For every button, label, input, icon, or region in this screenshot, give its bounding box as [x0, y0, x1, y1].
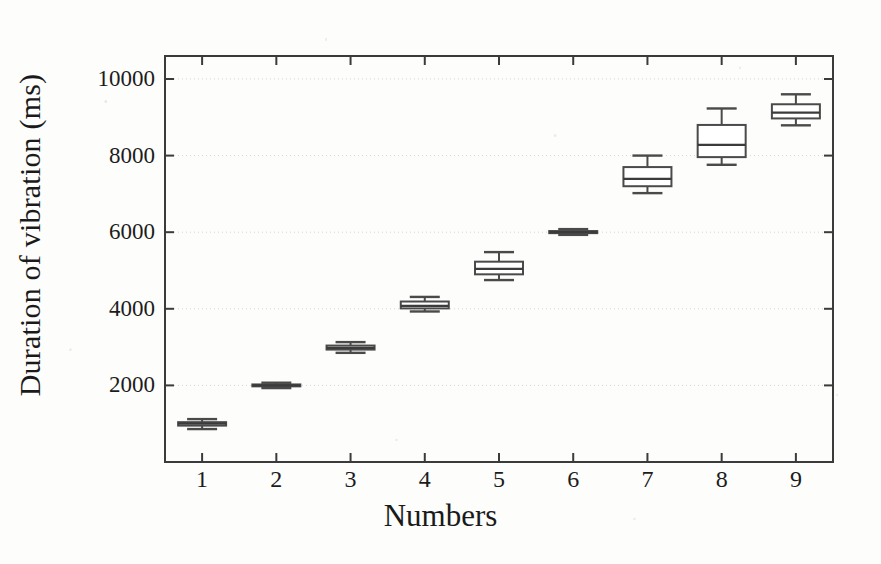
box-plot-item: [401, 297, 449, 312]
boxplot-chart: Duration of vibration (ms) 2000400060008…: [0, 0, 881, 564]
box-plot-item: [327, 342, 375, 353]
x-tick-label: 5: [493, 466, 505, 493]
box-plot-item: [698, 108, 746, 164]
x-tick-label: 2: [270, 466, 282, 493]
box: [772, 104, 820, 118]
x-axis-title: Numbers: [0, 498, 881, 534]
box-plot-item: [178, 419, 226, 429]
x-tick-label: 3: [345, 466, 357, 493]
x-tick-label: 6: [567, 466, 579, 493]
box-plot-item: [252, 383, 300, 388]
box: [623, 167, 671, 186]
plot-area: [0, 0, 881, 564]
box-plot-item: [772, 94, 820, 125]
box-plot-item: [475, 252, 523, 280]
box: [698, 125, 746, 157]
x-tick-label: 7: [641, 466, 653, 493]
x-tick-label: 1: [196, 466, 208, 493]
x-tick-label: 4: [419, 466, 431, 493]
x-tick-label: 9: [790, 466, 802, 493]
box-plot-item: [623, 156, 671, 194]
x-tick-label: 8: [716, 466, 728, 493]
box-plot-item: [549, 229, 597, 235]
